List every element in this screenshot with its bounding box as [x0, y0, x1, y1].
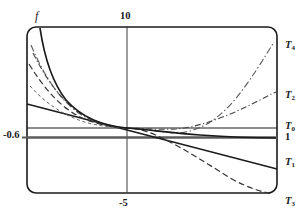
- curve-label-t0-sub: 0: [291, 125, 295, 133]
- taylor-polynomial-plot: [0, 0, 304, 217]
- left-tick-label: -0.6: [3, 130, 20, 141]
- curve-label-t4-sub: 4: [291, 44, 295, 52]
- x-axis-value: -5: [119, 198, 128, 209]
- curve-T3-upper-branch: [30, 86, 127, 128]
- curve-label-t2-sub: 2: [291, 94, 295, 102]
- curve-f: [40, 28, 276, 138]
- y-axis-label-f: f: [35, 10, 38, 22]
- curve-label-t4: T4: [285, 40, 295, 52]
- curve-label-t1-sub: 1: [291, 161, 295, 169]
- curve-T4: [31, 42, 274, 133]
- curve-label-t1: T1: [285, 157, 295, 169]
- curve-label-t2: T2: [285, 90, 295, 102]
- plot-frame: [27, 27, 277, 193]
- curve-T2: [33, 53, 276, 129]
- curve-label-t3: T3: [285, 196, 295, 208]
- y-axis-top-value: 10: [120, 11, 131, 22]
- curve-label-one: 1: [285, 132, 290, 143]
- curve-label-t3-sub: 3: [291, 200, 295, 208]
